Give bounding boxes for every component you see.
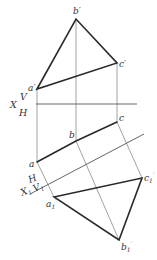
- label-c: c: [119, 113, 124, 123]
- label-v-plane: V: [20, 91, 28, 102]
- label-x-axis: X: [9, 99, 18, 110]
- label-b: b: [69, 130, 75, 140]
- label-a-prime: a′: [28, 83, 35, 93]
- label-h-plane: H: [18, 107, 28, 118]
- label-b1-prime: b1′: [121, 240, 133, 253]
- projection-line-c1: [117, 122, 142, 178]
- line-h-projection: [37, 122, 117, 162]
- label-a: a: [29, 159, 34, 169]
- label-a1-prime: a1′: [46, 197, 57, 210]
- x1-axis-line: [30, 134, 144, 194]
- x1-axis-labels: X1 H V1: [14, 170, 45, 200]
- label-b-prime: b′: [73, 6, 81, 16]
- triangle-v-projection: [37, 19, 117, 89]
- triangle-v1-projection: [54, 178, 142, 240]
- projection-diagram: a′ b′ c′ a b c a1′ c1′ b1′ X V H X1 H V1: [0, 0, 157, 260]
- label-x1-axis: X1: [18, 184, 33, 199]
- label-c1-prime: c1′: [144, 171, 155, 184]
- label-c-prime: c′: [119, 59, 126, 69]
